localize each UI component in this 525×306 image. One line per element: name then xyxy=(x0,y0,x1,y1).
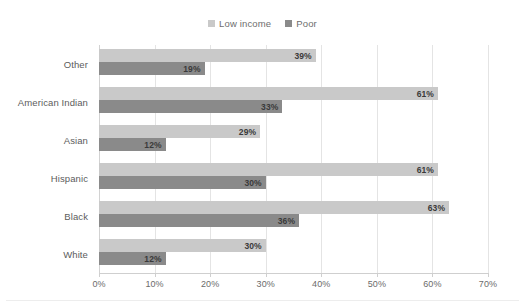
plot-area: 39%19%61%33%29%12%61%30%63%36%30%12% xyxy=(99,45,488,273)
tick-mark-30pct xyxy=(266,273,267,277)
bar-low-income[interactable]: 39% xyxy=(99,49,316,62)
bar-group: 30%12% xyxy=(99,235,488,273)
tick-label-30pct: 30% xyxy=(257,279,275,289)
tick-mark-20pct xyxy=(210,273,211,277)
bar-value-label: 36% xyxy=(278,216,299,226)
tick-label-60pct: 60% xyxy=(423,279,441,289)
category-label-black: Black xyxy=(64,197,88,235)
bar-poor[interactable]: 36% xyxy=(99,214,299,227)
tick-label-40pct: 40% xyxy=(312,279,330,289)
bar-value-label: 33% xyxy=(261,102,282,112)
bar-poor[interactable]: 30% xyxy=(99,176,266,189)
bar-value-label: 61% xyxy=(417,89,438,99)
legend-entry-low-income: Low income xyxy=(208,18,271,29)
bar-group: 61%33% xyxy=(99,83,488,121)
category-label-asian: Asian xyxy=(64,121,88,159)
bottom-divider xyxy=(6,300,519,301)
tick-label-10pct: 10% xyxy=(145,279,163,289)
value-axis-labels: 0%10%20%30%40%50%60%70% xyxy=(99,279,488,295)
category-label-hispanic: Hispanic xyxy=(51,159,88,197)
tick-label-50pct: 50% xyxy=(368,279,386,289)
category-axis: OtherAmerican IndianAsianHispanicBlackWh… xyxy=(0,45,94,273)
tick-mark-40pct xyxy=(321,273,322,277)
legend-label-poor: Poor xyxy=(296,18,317,29)
bar-value-label: 30% xyxy=(244,178,265,188)
bar-value-label: 19% xyxy=(183,64,204,74)
tick-mark-50pct xyxy=(377,273,378,277)
gridline-70pct xyxy=(488,45,489,273)
tick-mark-70pct xyxy=(488,273,489,277)
tick-label-0pct: 0% xyxy=(92,279,105,289)
bar-low-income[interactable]: 30% xyxy=(99,239,266,252)
bar-value-label: 30% xyxy=(244,241,265,251)
tick-mark-0pct xyxy=(99,273,100,277)
tick-mark-10pct xyxy=(155,273,156,277)
bar-value-label: 61% xyxy=(417,165,438,175)
bar-poor[interactable]: 33% xyxy=(99,100,282,113)
bar-low-income[interactable]: 63% xyxy=(99,201,449,214)
chart-legend: Low income Poor xyxy=(0,18,525,29)
legend-swatch-low-income xyxy=(208,20,215,27)
bar-group: 29%12% xyxy=(99,121,488,159)
bar-value-label: 29% xyxy=(239,127,260,137)
bar-low-income[interactable]: 61% xyxy=(99,163,438,176)
bar-poor[interactable]: 12% xyxy=(99,252,166,265)
category-label-american-indian: American Indian xyxy=(18,83,88,121)
category-label-other: Other xyxy=(64,45,88,83)
legend-entry-poor: Poor xyxy=(285,18,317,29)
bar-group: 63%36% xyxy=(99,197,488,235)
bar-poor[interactable]: 19% xyxy=(99,62,205,75)
bar-group: 61%30% xyxy=(99,159,488,197)
value-axis-ticks xyxy=(99,273,488,278)
bar-group: 39%19% xyxy=(99,45,488,83)
tick-mark-60pct xyxy=(432,273,433,277)
tick-label-20pct: 20% xyxy=(201,279,219,289)
bar-value-label: 12% xyxy=(144,140,165,150)
bar-value-label: 12% xyxy=(144,254,165,264)
category-label-white: White xyxy=(63,235,88,273)
legend-swatch-poor xyxy=(285,20,292,27)
bar-value-label: 63% xyxy=(428,203,449,213)
legend-label-low-income: Low income xyxy=(219,18,271,29)
tick-label-70pct: 70% xyxy=(479,279,497,289)
bars-layer: 39%19%61%33%29%12%61%30%63%36%30%12% xyxy=(99,45,488,273)
bar-low-income[interactable]: 61% xyxy=(99,87,438,100)
bar-low-income[interactable]: 29% xyxy=(99,125,260,138)
bar-chart: Low income Poor OtherAmerican IndianAsia… xyxy=(0,0,525,306)
bar-poor[interactable]: 12% xyxy=(99,138,166,151)
bar-value-label: 39% xyxy=(294,51,315,61)
